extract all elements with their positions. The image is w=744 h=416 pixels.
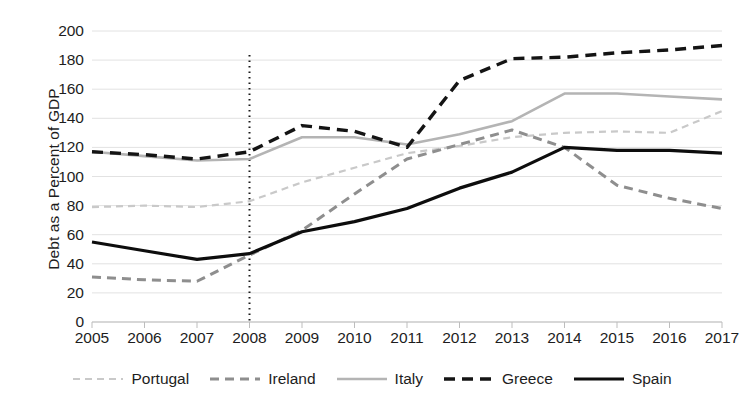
legend-label: Greece [502,371,553,387]
y-tick-label: 160 [32,81,84,97]
x-tick-label: 2011 [380,330,434,346]
chart-container: Debt as a Percent of GDP 200180160140120… [0,0,744,416]
chart-legend: PortugalIrelandItalyGreeceSpain [0,371,744,387]
x-tick-label: 2007 [170,330,224,346]
x-tick-label: 2017 [695,330,744,346]
legend-swatch-portugal-icon [72,372,124,386]
x-tick-label: 2005 [65,330,119,346]
x-tick-label: 2010 [328,330,382,346]
y-tick-label: 0 [32,314,84,330]
y-tick-label: 140 [32,110,84,126]
plot-area [0,0,744,416]
x-tick-label: 2013 [485,330,539,346]
y-tick-label: 60 [32,227,84,243]
y-tick-label: 80 [32,198,84,214]
series-lines [92,46,722,282]
legend-label: Spain [632,371,672,387]
x-tick-label: 2012 [433,330,487,346]
legend-item-spain[interactable]: Spain [573,371,672,387]
gridlines [92,31,722,322]
y-tick-label: 20 [32,285,84,301]
x-tick-label: 2006 [118,330,172,346]
x-tick-label: 2014 [538,330,592,346]
x-tick-label: 2009 [275,330,329,346]
series-line-spain [92,147,722,259]
legend-label: Portugal [131,371,189,387]
legend-swatch-spain-icon [573,372,625,386]
y-tick-label: 200 [32,23,84,39]
legend-swatch-ireland-icon [209,372,261,386]
legend-swatch-italy-icon [336,372,388,386]
x-tick-label: 2016 [643,330,697,346]
series-line-greece [92,46,722,159]
x-axis [92,322,722,328]
legend-label: Ireland [268,371,315,387]
legend-item-greece[interactable]: Greece [443,371,553,387]
legend-item-italy[interactable]: Italy [336,371,423,387]
legend-item-portugal[interactable]: Portugal [72,371,189,387]
x-tick-label: 2015 [590,330,644,346]
legend-swatch-greece-icon [443,372,495,386]
y-tick-label: 120 [32,139,84,155]
legend-label: Italy [395,371,423,387]
y-tick-label: 100 [32,169,84,185]
y-tick-label: 40 [32,256,84,272]
x-tick-label: 2008 [223,330,277,346]
legend-item-ireland[interactable]: Ireland [209,371,315,387]
y-tick-label: 180 [32,52,84,68]
